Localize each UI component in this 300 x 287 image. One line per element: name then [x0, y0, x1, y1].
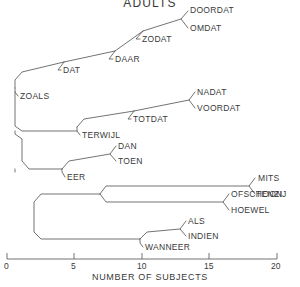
link-m3-stem — [64, 51, 115, 62]
leaf-label-nadat: NADAT — [197, 88, 227, 97]
leaf-label-daar: DAAR — [115, 55, 140, 64]
link-m10-stem — [62, 154, 110, 169]
leaf-label-dan: DAN — [118, 142, 137, 151]
leaf-label-als: ALS — [188, 217, 205, 226]
leaf-label-dat: DAT — [63, 66, 80, 75]
link-m16-stem — [140, 229, 180, 239]
link-m8-terwijl — [77, 127, 80, 135]
link-ofschoon-hoewel — [223, 194, 229, 210]
leaf-label-zoals: ZOALS — [20, 92, 49, 101]
link-m5-zoals — [15, 88, 18, 96]
leaf-label-doordat: DOORDAT — [190, 6, 234, 15]
link-m2-stem — [115, 31, 143, 51]
link-m18-join — [34, 194, 140, 239]
x-tick-label-5: 5 — [71, 262, 76, 271]
x-axis-title: NUMBER OF SUBJECTS — [0, 272, 300, 282]
link-m17-wanneer — [140, 239, 143, 247]
link-m1-stem — [143, 19, 181, 31]
link-m12-join — [15, 131, 62, 169]
link-als-indien — [180, 221, 186, 236]
link-nadat-voordat — [189, 92, 195, 108]
link-m4-stem — [15, 62, 64, 88]
link-doordat-omdat — [181, 11, 188, 28]
x-tick-label-20: 20 — [271, 262, 280, 271]
leaf-label-ofschoon: OFSCHOON — [231, 190, 283, 199]
leaf-label-indien: INDIEN — [188, 232, 219, 241]
dendrogram-links — [15, 11, 255, 247]
link-m13-stem — [100, 186, 249, 194]
leaf-label-mits: MITS — [258, 174, 280, 183]
x-tick-label-15: 15 — [204, 262, 213, 271]
x-axis — [7, 253, 277, 259]
link-m14-stem — [100, 194, 223, 202]
leaf-label-omdat: OMDAT — [190, 24, 222, 33]
leaf-label-wanneer: WANNEER — [145, 243, 190, 252]
dendrogram-figure: ADULTS — [0, 0, 300, 287]
leaf-label-totdat: TOTDAT — [133, 115, 168, 124]
leaf-label-voordat: VOORDAT — [197, 104, 241, 113]
leaf-label-eer: EER — [67, 173, 85, 182]
link-dan-toen — [110, 146, 116, 161]
leaf-label-terwijl: TERWIJL — [82, 131, 120, 140]
link-m6-stem — [134, 100, 189, 111]
leaf-label-toen: TOEN — [118, 157, 143, 166]
link-m11-eer — [62, 169, 65, 177]
leaf-label-zodat: ZODAT — [142, 35, 172, 44]
x-tick-label-0: 0 — [4, 262, 9, 271]
leaf-label-hoewel: HOEWEL — [231, 206, 270, 215]
link-m7-stem — [77, 111, 134, 127]
x-tick-label-10: 10 — [137, 262, 146, 271]
